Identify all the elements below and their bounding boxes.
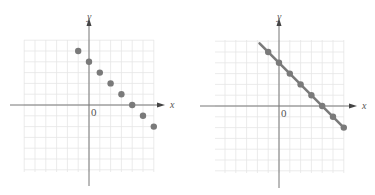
data-point (118, 91, 124, 97)
x-axis-label: x (361, 100, 367, 111)
data-point (297, 81, 303, 87)
data-point (341, 124, 347, 130)
data-point (97, 69, 103, 75)
data-point (265, 49, 271, 55)
y-axis-label: y (86, 11, 92, 22)
data-point (287, 70, 293, 76)
x-axis-label: x (169, 99, 175, 110)
data-point (319, 103, 325, 109)
origin-label: 0 (281, 107, 287, 119)
x-axis-arrow-icon (157, 103, 165, 108)
data-point (308, 92, 314, 98)
figure: yx0yx0 (0, 0, 375, 195)
data-point (276, 60, 282, 66)
data-point (129, 102, 135, 108)
panel-left: yx0 (10, 11, 175, 186)
data-point (75, 48, 81, 54)
data-point (86, 59, 92, 65)
data-point (151, 123, 157, 129)
x-axis-arrow-icon (349, 104, 357, 109)
panel-right: yx0 (200, 11, 367, 188)
data-point (140, 113, 146, 119)
data-point (330, 114, 336, 120)
origin-label: 0 (91, 106, 97, 118)
data-point (107, 80, 113, 86)
y-axis-label: y (276, 11, 282, 22)
